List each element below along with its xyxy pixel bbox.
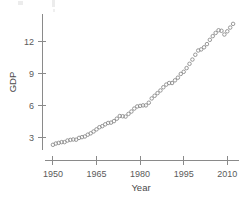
data-point bbox=[202, 46, 206, 50]
data-point bbox=[159, 89, 163, 93]
gdp-scatter-figure: 36912 19501965198019952010 GDP Year bbox=[0, 0, 244, 199]
data-point bbox=[173, 79, 177, 83]
x-tick-label: 1995 bbox=[174, 169, 194, 179]
data-point bbox=[191, 58, 195, 62]
data-point bbox=[194, 53, 198, 57]
data-point bbox=[226, 30, 230, 34]
x-tick-label: 1950 bbox=[43, 169, 63, 179]
x-axis-ticks: 19501965198019952010 bbox=[43, 156, 237, 179]
chart-canvas: 36912 19501965198019952010 GDP Year bbox=[0, 0, 244, 199]
y-tick-label: 3 bbox=[29, 133, 34, 143]
y-tick-label: 6 bbox=[29, 101, 34, 111]
data-point-series bbox=[51, 22, 235, 146]
data-point bbox=[208, 38, 212, 42]
x-tick-label: 1965 bbox=[86, 169, 106, 179]
data-point bbox=[130, 110, 134, 114]
data-point bbox=[182, 70, 186, 74]
y-axis: 36912 bbox=[24, 14, 46, 150]
data-point bbox=[115, 117, 119, 121]
data-point bbox=[176, 76, 180, 80]
data-point bbox=[231, 22, 235, 26]
x-tick-label: 1980 bbox=[130, 169, 150, 179]
top-crop-artifact bbox=[18, 0, 55, 12]
y-axis-title: GDP bbox=[7, 72, 18, 93]
data-point bbox=[214, 31, 218, 35]
y-tick-label: 9 bbox=[29, 69, 34, 79]
data-point bbox=[223, 33, 227, 37]
data-point bbox=[205, 42, 209, 46]
data-point bbox=[162, 86, 166, 90]
data-point bbox=[153, 94, 157, 98]
data-point bbox=[156, 91, 160, 95]
data-point bbox=[185, 66, 189, 70]
x-axis: 19501965198019952010 bbox=[43, 156, 239, 179]
x-axis-title: Year bbox=[131, 182, 150, 193]
data-point bbox=[147, 101, 151, 105]
data-point bbox=[228, 26, 232, 30]
x-tick-label: 2010 bbox=[217, 169, 237, 179]
y-tick-label: 12 bbox=[24, 37, 34, 47]
data-point bbox=[150, 97, 154, 101]
data-point bbox=[211, 34, 215, 38]
data-point bbox=[188, 62, 192, 66]
